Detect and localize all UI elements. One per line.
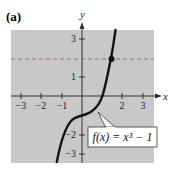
y-axis-arrow-icon bbox=[80, 22, 85, 29]
intersection-point bbox=[109, 56, 115, 62]
chart-figure: (a) x y −3 −2 −1 2 3 3 1 −2 −3 bbox=[0, 0, 176, 171]
x-tick-label: −3 bbox=[16, 100, 27, 111]
x-tick-label: 2 bbox=[120, 100, 125, 111]
x-tick-label: −1 bbox=[57, 100, 68, 111]
x-tick-label: 3 bbox=[141, 100, 146, 111]
function-label: f(x) = x³ − 1 bbox=[93, 130, 153, 144]
panel-label: (a) bbox=[6, 9, 21, 24]
y-tick-label: −3 bbox=[65, 148, 76, 159]
y-tick-label: −2 bbox=[65, 129, 76, 140]
x-tick-label: −2 bbox=[36, 100, 47, 111]
y-tick-label: 1 bbox=[71, 71, 76, 82]
y-axis-label: y bbox=[79, 8, 85, 20]
x-axis-label: x bbox=[162, 90, 168, 102]
y-tick-label: 3 bbox=[71, 33, 76, 44]
x-axis-arrow-icon bbox=[155, 94, 162, 99]
